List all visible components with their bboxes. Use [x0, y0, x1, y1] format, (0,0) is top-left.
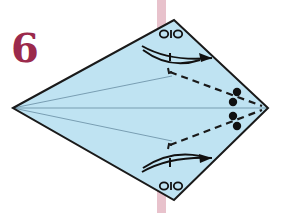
- origami-diagram: 6: [0, 0, 282, 213]
- kite-paper: [13, 20, 268, 200]
- kite-diagram: [0, 0, 282, 213]
- step-number: 6: [11, 28, 39, 68]
